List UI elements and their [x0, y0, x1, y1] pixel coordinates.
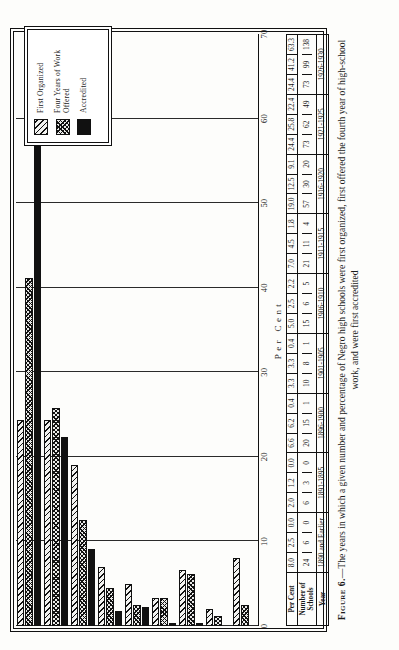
- bar: [152, 598, 159, 626]
- bar: [206, 609, 213, 626]
- table-value: 21: [302, 253, 312, 273]
- table-value: 1: [302, 334, 312, 353]
- bar: [233, 558, 240, 626]
- bar: [160, 598, 167, 626]
- table-value: 0.4: [287, 394, 297, 413]
- table-year-cell: 1926-1930: [317, 35, 328, 95]
- table-cell: 1081: [298, 333, 317, 393]
- table-cell: 20151: [298, 393, 317, 453]
- table-value: 3: [302, 472, 312, 492]
- table-value: 73: [302, 134, 312, 154]
- table-row: Per Cent8.02.50.02.01.20.06.66.20.43.33.…: [287, 35, 298, 626]
- table-cell: 21114: [298, 214, 317, 274]
- table-value: 3.3: [287, 373, 297, 393]
- bar: [71, 465, 78, 626]
- axis-tick-label: 60: [259, 114, 269, 123]
- table-year-cell: 1891-1895: [317, 453, 328, 513]
- table-cell: 736249: [298, 94, 317, 154]
- bar: [196, 623, 203, 626]
- bar: [187, 574, 194, 626]
- axis-tick-label: 0: [259, 624, 269, 628]
- table-row: Year1890 and Earlier1891-18951896-190019…: [317, 35, 328, 626]
- table-cell: 2.01.20.0: [287, 453, 298, 513]
- table-value: 20: [302, 155, 312, 174]
- table-row: Number of Schools24606302015110811565211…: [298, 35, 317, 626]
- table-row-header: Year: [317, 573, 328, 626]
- table-cell: 7.04.51.8: [287, 214, 298, 274]
- table-cell: 1565: [298, 274, 317, 334]
- table-value: 0.0: [287, 453, 297, 472]
- bar: [169, 623, 176, 626]
- table-value: 2.5: [287, 293, 297, 313]
- table-value: 6.6: [287, 433, 297, 453]
- legend-swatch: [77, 119, 91, 135]
- table-cell: 24.425.822.4: [287, 94, 298, 154]
- percent-axis-title: Per Cent: [273, 34, 283, 626]
- table-value: 2.2: [287, 274, 297, 293]
- table-cell: 5.02.52.2: [287, 274, 298, 334]
- table-value: 63.3: [287, 35, 297, 54]
- legend-item: First Organized: [34, 37, 48, 135]
- table-value: 30: [302, 174, 312, 194]
- axis-tick-label: 40: [259, 283, 269, 292]
- bar-group: [179, 34, 205, 626]
- bar: [61, 437, 68, 626]
- table-row-header: Number of Schools: [298, 573, 317, 626]
- axis-tick-label: 10: [259, 537, 269, 546]
- bar: [142, 607, 149, 626]
- data-table-grid: Per Cent8.02.50.02.01.20.06.66.20.43.33.…: [286, 34, 329, 626]
- table-value: 0: [302, 453, 312, 472]
- table-value: 15: [302, 413, 312, 433]
- table-year-cell: 1916-1920: [317, 154, 328, 214]
- table-value: 25.8: [287, 114, 297, 134]
- table-value: 8.0: [287, 552, 297, 572]
- legend-swatch: [56, 119, 70, 135]
- table-value: 11: [302, 233, 312, 253]
- table-value: 19.0: [287, 193, 297, 213]
- legend-label: Accredited: [80, 78, 89, 113]
- table-value: 4: [302, 214, 312, 233]
- table-value: 7.0: [287, 253, 297, 273]
- table-value: 3.3: [287, 353, 297, 373]
- table-cell: 573020: [298, 154, 317, 214]
- bar-group: [152, 34, 178, 626]
- table-cell: 24.441.263.3: [287, 35, 298, 95]
- legend-item: Accredited: [77, 37, 91, 135]
- table-value: 15: [302, 313, 312, 333]
- figure-sheet: 010203040506070 Per Cent First Organized…: [0, 0, 399, 650]
- table-value: 0.0: [287, 513, 297, 532]
- axis-tick-label: 50: [259, 199, 269, 208]
- table-value: 2.5: [287, 532, 297, 552]
- legend-swatch: [34, 119, 48, 135]
- data-table: Per Cent8.02.50.02.01.20.06.66.20.43.33.…: [286, 34, 322, 626]
- table-value: 24: [302, 552, 312, 572]
- table-year-cell: 1896-1900: [317, 393, 328, 453]
- table-cell: 3.33.30.4: [287, 333, 298, 393]
- table-cell: 6.66.20.4: [287, 393, 298, 453]
- bar: [115, 611, 122, 626]
- table-cell: 8.02.50.0: [287, 513, 298, 573]
- bar: [179, 570, 186, 626]
- table-value: 6.2: [287, 413, 297, 433]
- figure-caption-text: —The years in which a given number and p…: [336, 40, 360, 579]
- table-value: 4.5: [287, 233, 297, 253]
- table-value: 22.4: [287, 95, 297, 114]
- table-value: 0.4: [287, 334, 297, 353]
- legend-label: Four Years of Work Offered: [54, 37, 71, 113]
- table-year-cell: 1921-1925: [317, 94, 328, 154]
- table-value: 24.4: [287, 134, 297, 154]
- legend-label: First Organized: [37, 63, 46, 113]
- bar-group: [206, 34, 232, 626]
- bar: [25, 278, 32, 626]
- table-value: 8: [302, 353, 312, 373]
- table-value: 1.2: [287, 472, 297, 492]
- bar: [44, 420, 51, 626]
- axis-tick-label: 20: [259, 452, 269, 461]
- table-cell: 2460: [298, 513, 317, 573]
- bar: [98, 567, 105, 626]
- bar: [125, 584, 132, 626]
- chart-legend: First OrganizedFour Years of Work Offere…: [24, 26, 112, 146]
- table-value: 9.1: [287, 155, 297, 174]
- table-cell: 19.012.59.1: [287, 154, 298, 214]
- table-value: 1.8: [287, 214, 297, 233]
